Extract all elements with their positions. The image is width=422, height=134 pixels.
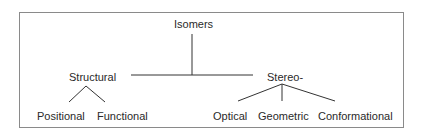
node-conformational: Conformational (318, 110, 393, 122)
node-geometric: Geometric (258, 110, 309, 122)
stereo-to-optical-line (238, 84, 282, 101)
node-positional: Positional (37, 110, 85, 122)
structural-to-functional-line (86, 86, 105, 102)
structural-to-positional-line (69, 86, 86, 102)
node-structural: Structural (69, 71, 116, 83)
node-isomers: Isomers (174, 18, 213, 30)
node-optical: Optical (213, 110, 247, 122)
node-stereo: Stereo- (267, 71, 303, 83)
stereo-to-conformational-line (282, 84, 335, 101)
node-functional: Functional (97, 110, 148, 122)
